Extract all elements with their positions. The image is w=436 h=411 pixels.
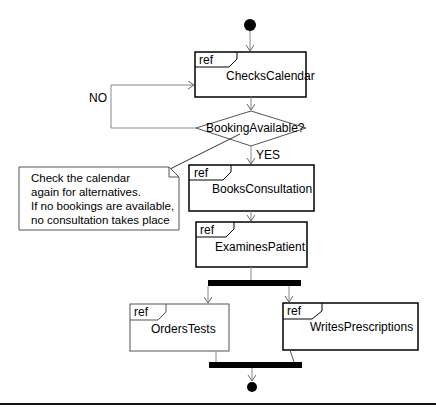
activity-writes-prescriptions[interactable]: ref WritesPrescriptions: [283, 303, 418, 350]
decision-booking-available[interactable]: BookingAvailable?: [196, 111, 306, 146]
activity-checks-calendar[interactable]: ref ChecksCalendar: [195, 52, 315, 97]
note-line-2: again for alternatives.: [31, 186, 141, 198]
join-bar: [209, 362, 302, 368]
edge-writes-to-join: [290, 350, 294, 362]
activity-orders-tests[interactable]: ref OrdersTests: [130, 304, 229, 351]
note-line-3: If no bookings are available,: [31, 200, 174, 212]
ref-tag: ref: [287, 304, 302, 318]
fork-bar: [208, 280, 301, 286]
activity-label: OrdersTests: [151, 322, 216, 336]
guard-no: NO: [89, 91, 107, 105]
note-line-1: Check the calendar: [31, 172, 130, 184]
decision-label: BookingAvailable?: [206, 121, 305, 135]
edge-no-loop: [111, 85, 196, 128]
ref-tag: ref: [200, 223, 215, 237]
activity-diagram: ref ChecksCalendar BookingAvailable? NO …: [0, 0, 436, 411]
ref-tag: ref: [194, 166, 209, 180]
guard-yes: YES: [256, 148, 280, 162]
activity-label: ExaminesPatient: [215, 240, 306, 254]
final-node: [247, 382, 257, 392]
note-line-4: no consultation takes place: [31, 214, 170, 226]
note-comment: Check the calendar again for alternative…: [19, 167, 179, 230]
ref-tag: ref: [199, 53, 214, 67]
activity-books-consultation[interactable]: ref BooksConsultation: [189, 165, 314, 211]
activity-label: BooksConsultation: [212, 182, 312, 196]
ref-tag: ref: [134, 305, 149, 319]
activity-label: ChecksCalendar: [226, 69, 315, 83]
initial-node: [244, 19, 256, 31]
activity-examines-patient[interactable]: ref ExaminesPatient: [196, 222, 307, 267]
activity-label: WritesPrescriptions: [310, 320, 413, 334]
